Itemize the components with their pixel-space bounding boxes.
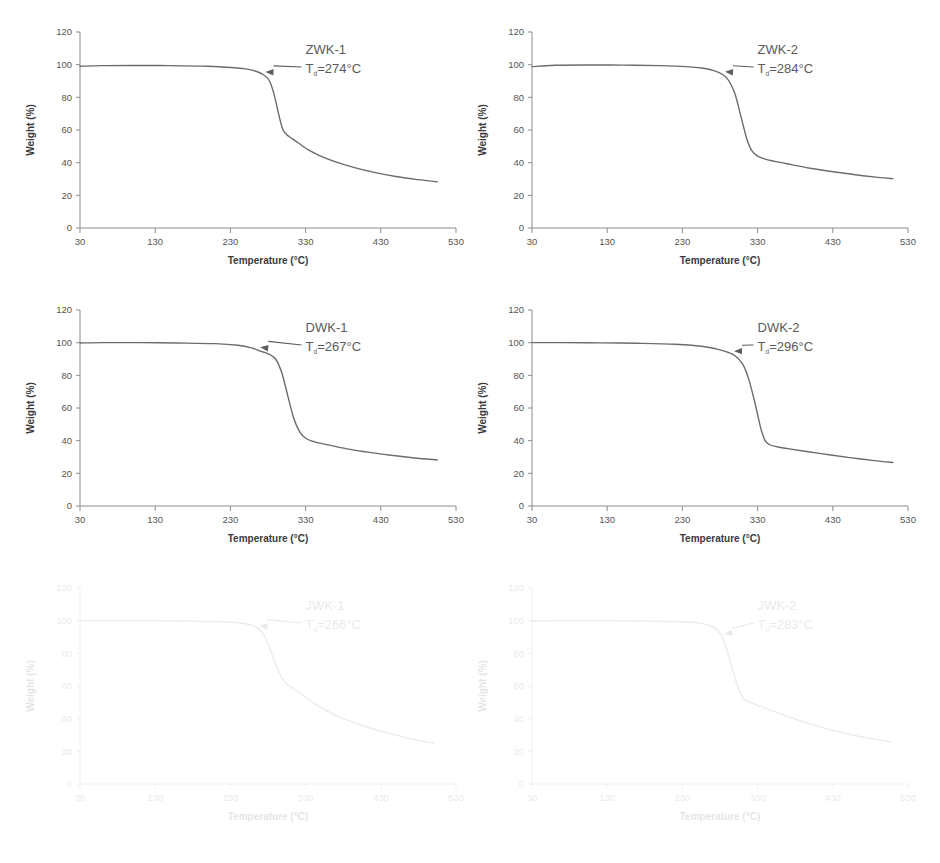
y-tick-label: 40 xyxy=(513,157,524,168)
y-tick-label: 0 xyxy=(519,778,524,789)
y-tick-label: 100 xyxy=(56,615,72,626)
annotation-arrow-head-dwk-1 xyxy=(260,345,268,351)
y-axis-title: Weight (%) xyxy=(25,382,36,433)
x-axis-title: Temperature (°C) xyxy=(680,255,761,266)
x-axis-title: Temperature (°C) xyxy=(228,255,309,266)
y-tick-label: 100 xyxy=(56,59,72,70)
series-title-jwk-2: JWK-2 xyxy=(758,598,797,613)
td-label-jwk-2: Td=283°C xyxy=(758,617,813,633)
x-tick-label: 330 xyxy=(750,514,766,525)
annotation-arrow-head-jwk-1 xyxy=(259,623,267,629)
td-label-zwk-1: Td=274°C xyxy=(306,61,361,77)
series-title-zwk-1: ZWK-1 xyxy=(306,42,346,57)
y-tick-label: 20 xyxy=(61,190,72,201)
annotation-arrow-line-dwk-1 xyxy=(268,341,301,345)
y-tick-label: 40 xyxy=(61,435,72,446)
td-prefix: T xyxy=(306,339,314,354)
x-tick-label: 130 xyxy=(147,514,163,525)
y-axis-title: Weight (%) xyxy=(25,660,36,711)
y-tick-label: 0 xyxy=(67,778,72,789)
tga-curve-zwk-1 xyxy=(80,65,437,181)
chart-panel-jwk-2: 02040608010012030130230330430530Temperat… xyxy=(470,566,930,846)
td-value: =283°C xyxy=(769,617,813,632)
td-prefix: T xyxy=(306,617,314,632)
y-tick-label: 20 xyxy=(513,468,524,479)
y-tick-label: 0 xyxy=(67,500,72,511)
tga-curve-jwk-2 xyxy=(532,621,891,742)
y-tick-label: 80 xyxy=(513,92,524,103)
annotation-arrow-head-zwk-2 xyxy=(725,69,733,75)
x-tick-label: 330 xyxy=(298,792,314,803)
chart-svg-jwk-1: 02040608010012030130230330430530Temperat… xyxy=(18,566,478,846)
td-label-jwk-1: Td=266°C xyxy=(306,617,361,633)
tga-curve-zwk-2 xyxy=(532,65,893,179)
x-tick-label: 130 xyxy=(147,792,163,803)
y-tick-label: 100 xyxy=(56,337,72,348)
x-tick-label: 530 xyxy=(448,792,464,803)
y-axis-title: Weight (%) xyxy=(25,104,36,155)
td-label-dwk-2: Td=296°C xyxy=(758,339,813,355)
chart-svg-jwk-2: 02040608010012030130230330430530Temperat… xyxy=(470,566,930,846)
x-tick-label: 230 xyxy=(222,514,238,525)
x-tick-label: 430 xyxy=(373,792,389,803)
chart-panel-dwk-2: 02040608010012030130230330430530Temperat… xyxy=(470,288,930,568)
x-axis-title: Temperature (°C) xyxy=(680,533,761,544)
y-tick-label: 40 xyxy=(61,157,72,168)
x-axis-title: Temperature (°C) xyxy=(228,533,309,544)
x-tick-label: 430 xyxy=(825,236,841,247)
series-title-zwk-2: ZWK-2 xyxy=(758,42,798,57)
y-tick-label: 20 xyxy=(513,190,524,201)
x-tick-label: 30 xyxy=(75,236,86,247)
x-tick-label: 230 xyxy=(674,236,690,247)
x-tick-label: 130 xyxy=(599,792,615,803)
x-tick-label: 230 xyxy=(222,236,238,247)
y-tick-label: 0 xyxy=(519,222,524,233)
x-tick-label: 330 xyxy=(298,236,314,247)
y-tick-label: 80 xyxy=(61,370,72,381)
x-tick-label: 130 xyxy=(147,236,163,247)
x-tick-label: 530 xyxy=(900,514,916,525)
x-tick-label: 530 xyxy=(448,514,464,525)
td-value: =267°C xyxy=(317,339,361,354)
chart-panel-jwk-1: 02040608010012030130230330430530Temperat… xyxy=(18,566,478,846)
x-tick-label: 130 xyxy=(599,514,615,525)
td-label-zwk-2: Td=284°C xyxy=(758,61,813,77)
x-tick-label: 530 xyxy=(448,236,464,247)
x-tick-label: 530 xyxy=(900,236,916,247)
y-tick-label: 20 xyxy=(61,746,72,757)
td-value: =284°C xyxy=(769,61,813,76)
y-tick-label: 40 xyxy=(513,435,524,446)
td-prefix: T xyxy=(306,61,314,76)
x-tick-label: 30 xyxy=(527,792,538,803)
y-tick-label: 20 xyxy=(513,746,524,757)
annotation-arrow-line-zwk-1 xyxy=(273,66,301,67)
series-title-dwk-2: DWK-2 xyxy=(758,320,800,335)
x-tick-label: 230 xyxy=(222,792,238,803)
annotation-arrow-head-jwk-2 xyxy=(724,629,733,635)
y-tick-label: 60 xyxy=(61,124,72,135)
chart-svg-zwk-2: 02040608010012030130230330430530Temperat… xyxy=(470,10,930,290)
y-axis-title: Weight (%) xyxy=(477,104,488,155)
y-tick-label: 40 xyxy=(61,713,72,724)
x-tick-label: 530 xyxy=(900,792,916,803)
y-tick-label: 80 xyxy=(61,648,72,659)
y-tick-label: 20 xyxy=(61,468,72,479)
td-prefix: T xyxy=(758,61,766,76)
y-tick-label: 80 xyxy=(513,370,524,381)
y-tick-label: 120 xyxy=(508,304,524,315)
y-tick-label: 80 xyxy=(61,92,72,103)
tga-curve-dwk-1 xyxy=(80,343,437,460)
x-tick-label: 30 xyxy=(75,514,86,525)
y-tick-label: 120 xyxy=(56,304,72,315)
chart-svg-dwk-1: 02040608010012030130230330430530Temperat… xyxy=(18,288,478,568)
x-tick-label: 130 xyxy=(599,236,615,247)
chart-panel-dwk-1: 02040608010012030130230330430530Temperat… xyxy=(18,288,478,568)
x-axis-title: Temperature (°C) xyxy=(228,811,309,822)
x-tick-label: 430 xyxy=(373,514,389,525)
x-axis-title: Temperature (°C) xyxy=(680,811,761,822)
x-tick-label: 30 xyxy=(527,236,538,247)
x-tick-label: 30 xyxy=(527,514,538,525)
annotation-arrow-line-jwk-2 xyxy=(732,623,753,629)
annotation-arrow-line-jwk-1 xyxy=(267,620,301,623)
y-tick-label: 0 xyxy=(519,500,524,511)
